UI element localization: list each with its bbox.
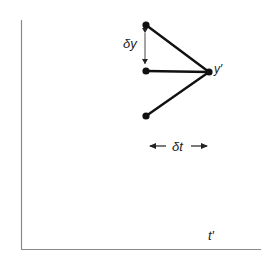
target-node-label: y′ (213, 62, 223, 76)
delta-y-label: δy (123, 36, 138, 51)
edge-bottom-to-target (146, 72, 209, 116)
node-top-left (142, 21, 149, 28)
delta-t-label: δt (172, 139, 184, 154)
node-mid-left (142, 67, 149, 74)
node-target (205, 68, 212, 75)
edge-mid-to-target (146, 71, 209, 72)
edge-top-to-target (146, 25, 209, 72)
stencil-edges (146, 25, 209, 116)
axes (21, 20, 261, 250)
x-axis-label: t′ (208, 228, 215, 243)
node-bottom-left (142, 112, 149, 119)
stencil-diagram: δy y′ δt t′ (0, 0, 265, 261)
